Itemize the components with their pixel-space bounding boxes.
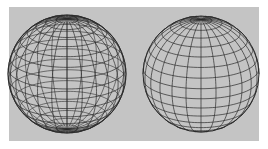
spheres-canvas — [0, 0, 268, 149]
wireframe-sphere-hidden-line-removed — [143, 16, 259, 132]
wireframe-sphere-see-through — [8, 15, 126, 133]
front-wireframe-lines — [143, 16, 259, 132]
